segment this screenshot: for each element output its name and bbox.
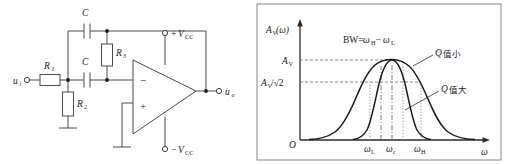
bandwidth-term2-sub: L xyxy=(391,39,395,46)
input-terminal-sub: i xyxy=(20,80,22,87)
annotation-high-q-text: 值大 xyxy=(449,85,467,95)
output-terminal-sub: o xyxy=(232,91,235,98)
x-tick-wc: ω c xyxy=(386,144,396,155)
input-terminal-label: u xyxy=(13,76,18,86)
figure-root: R 1 R 2 R 3 C xyxy=(0,0,505,164)
resistor-r3: R 3 xyxy=(102,44,127,66)
x-tick-wh: ω H xyxy=(414,144,426,155)
x-tick-wh-sub: H xyxy=(421,148,426,155)
x-tick-wl-sub: L xyxy=(371,148,375,155)
y-axis-label: A V (ω) xyxy=(265,25,289,36)
capacitor-c-mid: C xyxy=(80,57,95,88)
supply-positive: + V CC xyxy=(162,29,193,40)
supply-positive-sign: + xyxy=(171,29,176,39)
output-terminal-label: u xyxy=(225,87,230,97)
output-terminal: u o xyxy=(216,87,234,98)
capacitor-c-top: C xyxy=(80,8,95,39)
circuit-svg: R 1 R 2 R 3 C xyxy=(0,0,253,164)
annotation-low-q-text: 值小 xyxy=(443,49,461,59)
supply-negative-label: V xyxy=(178,145,185,155)
x-tick-wl-label: ω xyxy=(364,144,371,154)
annotation-high-q: Q 值大 xyxy=(405,84,467,110)
y-tick-av-sqrt2-suffix: /√2 xyxy=(271,78,284,88)
capacitor-c-mid-label: C xyxy=(82,57,89,67)
resistor-r1: R 1 xyxy=(40,61,60,86)
supply-positive-sub: CC xyxy=(185,33,193,40)
y-tick-av-sqrt2-label: A xyxy=(260,78,267,88)
x-tick-wc-sub: c xyxy=(393,148,396,155)
origin-label: O xyxy=(289,140,296,150)
opamp-noninverting-input-sign: + xyxy=(140,100,146,112)
x-tick-wl: ω L xyxy=(364,144,375,155)
bandwidth-annotation: BW= ω H − ω L xyxy=(343,35,395,46)
resistor-r2-label: R xyxy=(76,99,83,109)
bandwidth-term2: ω xyxy=(383,35,390,45)
resistor-r2: R 2 xyxy=(63,92,88,116)
annotation-high-q-symbol: Q xyxy=(441,84,448,94)
resistor-r1-label: R xyxy=(43,61,50,71)
bandwidth-prefix: BW= xyxy=(343,35,364,45)
resistor-r1-sub: 1 xyxy=(52,65,55,72)
y-axis-label-a: A xyxy=(265,25,272,35)
capacitor-c-top-label: C xyxy=(82,8,89,18)
supply-negative-sub: CC xyxy=(185,149,193,156)
annotation-low-q: Q 值小 xyxy=(413,48,461,66)
resistor-r3-label: R xyxy=(115,48,122,58)
y-tick-av-label: A xyxy=(281,56,288,66)
y-tick-av-sub: V xyxy=(289,60,294,67)
input-terminal: u i xyxy=(13,76,30,87)
resistor-r3-sub: 3 xyxy=(122,52,126,59)
bandwidth-term1: ω xyxy=(363,35,370,45)
y-tick-av: A V xyxy=(281,56,294,67)
x-axis-label: ω xyxy=(481,147,488,157)
resistor-r2-sub: 2 xyxy=(84,103,87,110)
supply-negative-sign: − xyxy=(171,145,176,155)
x-tick-wh-label: ω xyxy=(414,144,421,154)
frequency-response-panel: A V (ω) ω O BW= ω H − ω L xyxy=(253,0,505,164)
opamp-inverting-input-sign: − xyxy=(140,74,146,86)
supply-positive-label: V xyxy=(178,29,185,39)
supply-negative: − V CC xyxy=(162,145,193,156)
chart-axes xyxy=(297,19,490,143)
y-axis-label-arg: (ω) xyxy=(276,25,289,36)
annotation-low-q-symbol: Q xyxy=(435,48,442,58)
y-tick-av-sqrt2: A V /√2 xyxy=(260,78,284,89)
response-svg: A V (ω) ω O BW= ω H − ω L xyxy=(253,0,505,164)
circuit-diagram-panel: R 1 R 2 R 3 C xyxy=(0,0,253,164)
bandwidth-minus: − xyxy=(376,35,381,45)
x-tick-wc-label: ω xyxy=(386,144,393,154)
